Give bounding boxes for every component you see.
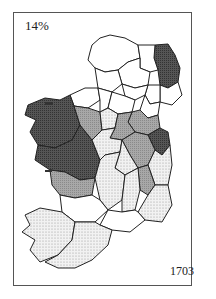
county-antrim (154, 44, 180, 88)
island-aran (45, 170, 52, 172)
county-kilkenny (122, 168, 140, 212)
county-sligo (70, 88, 100, 108)
island-achill (45, 102, 53, 105)
ireland-county-map (0, 0, 216, 299)
